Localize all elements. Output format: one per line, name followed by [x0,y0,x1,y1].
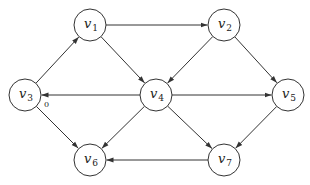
edge-v5-to-v7 [236,106,277,148]
node-v4: v4 [140,79,172,111]
edge-v4-to-v6 [102,106,145,148]
node-subscript: 1 [92,23,98,33]
node-subscript: 7 [226,158,232,168]
node-v6: v6 [74,144,106,176]
edge-v1-to-v4 [101,37,145,83]
edge-v2-to-v4 [167,36,212,83]
annotations-layer: 0 [44,100,49,109]
edge-v2-to-v5 [235,37,277,83]
directed-graph: v1v2v3v4v5v6v7 0 [0,0,310,185]
node-subscript: 2 [226,23,232,33]
node-v3: v3 [9,79,41,111]
node-v5: v5 [272,79,304,111]
node-subscript: 6 [92,158,98,168]
annotation-label: 0 [44,100,49,109]
nodes-layer: v1v2v3v4v5v6v7 [9,9,304,176]
edge-v3-to-v6 [36,106,78,148]
node-v1: v1 [74,9,106,41]
node-v7: v7 [208,144,240,176]
edge-v3-to-v1 [36,37,79,83]
node-v2: v2 [208,9,240,41]
node-subscript: 3 [27,93,33,103]
edge-v4-to-v7 [168,106,213,149]
node-subscript: 5 [290,93,296,103]
node-subscript: 4 [158,93,164,103]
